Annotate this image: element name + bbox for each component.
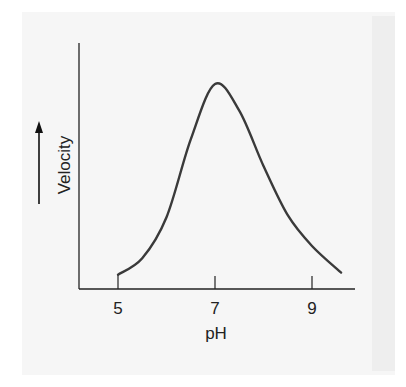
x-ticks [118,274,312,289]
y-axis-label: Velocity [56,136,73,195]
x-tick-label: 5 [113,300,122,317]
velocity-arrow-icon [35,121,43,204]
velocity-curve [118,83,341,274]
x-tick-label: 9 [307,300,316,317]
x-axis-label: pH [205,325,227,342]
x-tick-label: 7 [210,300,219,317]
